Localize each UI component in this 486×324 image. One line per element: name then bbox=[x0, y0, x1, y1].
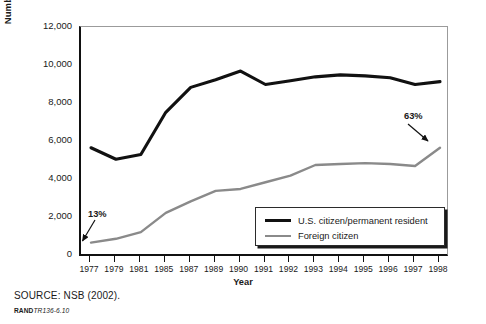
annotation-13-percent: 13% bbox=[88, 209, 107, 219]
legend-label: Foreign citizen bbox=[298, 231, 358, 241]
y-tick-label: 6,000 bbox=[24, 134, 72, 145]
x-tick-label: 1991 bbox=[254, 264, 273, 274]
source-note: SOURCE: NSB (2002). bbox=[14, 290, 120, 301]
line-us-citizen bbox=[91, 71, 440, 159]
x-axis-title: Year bbox=[0, 277, 486, 287]
x-tick-mark bbox=[388, 256, 389, 262]
annotation-arrow-13-percent bbox=[78, 219, 100, 246]
x-tick-mark bbox=[164, 256, 165, 262]
x-tick-label: 1989 bbox=[204, 264, 223, 274]
rand-logo-text: RAND bbox=[14, 307, 33, 314]
annotation-arrow-63-percent bbox=[406, 122, 436, 148]
y-tick-label: 12,000 bbox=[24, 20, 72, 31]
y-tick-label: 2,000 bbox=[24, 210, 72, 221]
x-tick-label: 1993 bbox=[304, 264, 323, 274]
rand-code-text: TR136-6.10 bbox=[33, 307, 69, 314]
x-tick-label: 1981 bbox=[129, 264, 148, 274]
x-tick-label: 1987 bbox=[179, 264, 198, 274]
x-tick-label: 1997 bbox=[404, 264, 423, 274]
rand-document-code: RANDTR136-6.10 bbox=[14, 307, 69, 314]
legend-label: U.S. citizen/permanent resident bbox=[298, 216, 428, 226]
x-tick-mark bbox=[313, 256, 314, 262]
y-tick-label: 8,000 bbox=[24, 96, 72, 107]
x-tick-label: 1992 bbox=[279, 264, 298, 274]
x-tick-label: 1994 bbox=[329, 264, 348, 274]
y-tick-label: 10,000 bbox=[24, 58, 72, 69]
x-tick-mark bbox=[239, 256, 240, 262]
x-tick-label: 1996 bbox=[379, 264, 398, 274]
x-tick-mark bbox=[89, 256, 90, 262]
x-tick-label: 1995 bbox=[354, 264, 373, 274]
x-tick-mark bbox=[288, 256, 289, 262]
x-tick-label: 1985 bbox=[154, 264, 173, 274]
y-tick-label: 4,000 bbox=[24, 172, 72, 183]
x-tick-label: 1979 bbox=[104, 264, 123, 274]
x-tick-label: 1977 bbox=[79, 264, 98, 274]
chart-legend: U.S. citizen/permanent resident Foreign … bbox=[255, 207, 445, 246]
x-tick-mark bbox=[264, 256, 265, 262]
legend-swatch-line-icon bbox=[265, 219, 291, 222]
y-tick-label: 0 bbox=[24, 248, 72, 259]
legend-item-foreign-citizen: Foreign citizen bbox=[265, 228, 444, 243]
x-tick-mark bbox=[338, 256, 339, 262]
legend-item-us-citizen: U.S. citizen/permanent resident bbox=[265, 213, 444, 228]
x-tick-mark bbox=[363, 256, 364, 262]
legend-swatch-line-icon bbox=[265, 235, 291, 237]
annotation-63-percent: 63% bbox=[404, 111, 423, 121]
x-tick-mark bbox=[438, 256, 439, 262]
x-tick-mark bbox=[139, 256, 140, 262]
x-tick-label: 1998 bbox=[428, 264, 447, 274]
x-tick-mark bbox=[114, 256, 115, 262]
x-tick-mark bbox=[413, 256, 414, 262]
x-tick-mark bbox=[189, 256, 190, 262]
x-tick-mark bbox=[214, 256, 215, 262]
y-axis-title: Number of degrees granted bbox=[2, 0, 18, 64]
x-tick-label: 1990 bbox=[229, 264, 248, 274]
